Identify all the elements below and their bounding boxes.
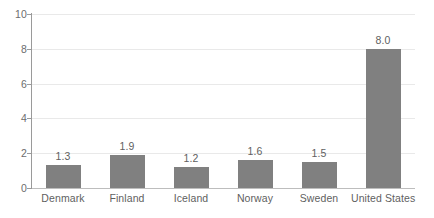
bar	[174, 167, 209, 188]
bar	[302, 162, 337, 188]
x-axis-category-label: Denmark	[31, 193, 95, 205]
y-axis-tick	[27, 14, 31, 15]
bar-slot: 1.9	[110, 14, 145, 188]
bar-value-label: 1.5	[290, 148, 349, 159]
y-axis-tick	[27, 49, 31, 50]
x-axis-category-label: Iceland	[159, 193, 223, 205]
bar-value-label: 1.3	[34, 151, 93, 162]
y-axis-line	[31, 13, 32, 189]
x-axis-category-label: Norway	[223, 193, 287, 205]
bar-value-label: 1.6	[226, 146, 285, 157]
x-axis-baseline	[31, 188, 415, 189]
x-axis-category-label: Sweden	[287, 193, 351, 205]
x-axis-category-label: Finland	[95, 193, 159, 205]
gridline	[31, 14, 415, 15]
bar-value-label: 1.2	[162, 153, 221, 164]
bar-slot: 1.2	[174, 14, 209, 188]
gridline	[31, 118, 415, 119]
bar-slot: 1.6	[238, 14, 273, 188]
y-axis-tick	[27, 153, 31, 154]
bar	[110, 155, 145, 188]
bar-slot: 1.3	[46, 14, 81, 188]
bar-slot: 8.0	[366, 14, 401, 188]
y-axis-tick-label: 10	[5, 9, 27, 20]
y-axis-tick-label: 4	[5, 113, 27, 124]
y-axis-tick	[27, 188, 31, 189]
x-axis-category-label: United States	[351, 193, 415, 205]
bar-chart: 0246810 1.31.91.21.61.58.0 DenmarkFinlan…	[0, 0, 434, 218]
gridline	[31, 84, 415, 85]
bar	[238, 160, 273, 188]
bar	[366, 49, 401, 188]
y-axis-tick-label: 6	[5, 79, 27, 90]
y-axis-tick-label: 2	[5, 148, 27, 159]
y-axis-tick-label: 8	[5, 44, 27, 55]
bar-value-label: 8.0	[354, 35, 413, 46]
bar	[46, 165, 81, 188]
y-axis-tick-label: 0	[5, 183, 27, 194]
y-axis-tick	[27, 84, 31, 85]
gridline	[31, 49, 415, 50]
bar-slot: 1.5	[302, 14, 337, 188]
bar-value-label: 1.9	[98, 141, 157, 152]
y-axis-tick	[27, 118, 31, 119]
